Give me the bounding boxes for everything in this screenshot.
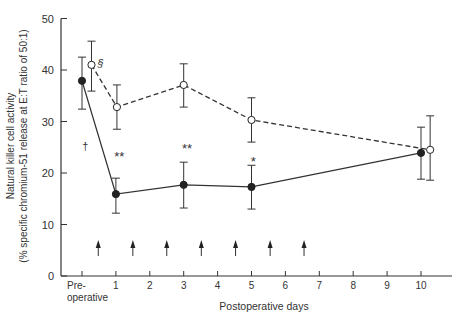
data-point — [180, 81, 187, 88]
y-tick-label: 0 — [48, 270, 54, 282]
y-tick-label: 20 — [42, 167, 54, 179]
y-tick-label: 50 — [42, 13, 54, 25]
arrow-icon — [302, 240, 307, 248]
data-point — [113, 103, 120, 110]
axes: 01020304050Pre-operative12345678910 — [42, 13, 452, 304]
data-point — [112, 191, 119, 198]
arrow-icon — [130, 240, 135, 248]
data-point — [88, 61, 95, 68]
data-series — [78, 41, 434, 213]
x-tick-label: 10 — [415, 280, 427, 291]
data-point — [417, 149, 424, 156]
significance-marker: § — [97, 57, 104, 69]
significance-marker: * — [251, 154, 256, 169]
y-tick-label: 30 — [42, 116, 54, 128]
x-tick-label: 6 — [283, 280, 289, 291]
x-tick-label: Pre- — [67, 280, 86, 291]
y-tick-label: 40 — [42, 64, 54, 76]
annotations: §†***** — [82, 57, 255, 169]
x-tick-label: 9 — [384, 280, 390, 291]
arrow-icon — [233, 240, 238, 248]
y-tick-label: 10 — [42, 219, 54, 231]
dosing-arrows — [96, 240, 307, 256]
arrow-icon — [164, 240, 169, 248]
x-tick-label: 1 — [113, 280, 119, 291]
data-point — [427, 146, 434, 153]
series-line — [91, 65, 430, 150]
x-tick-label: 7 — [317, 280, 323, 291]
x-axis-label: Postoperative days — [219, 300, 308, 312]
data-point — [78, 77, 85, 84]
arrow-icon — [199, 240, 204, 248]
significance-marker: † — [82, 140, 88, 152]
chart: 01020304050Pre-operative12345678910 §†**… — [0, 0, 466, 324]
data-point — [180, 181, 187, 188]
x-tick-label: 3 — [181, 280, 187, 291]
arrow-icon — [268, 240, 273, 248]
y-axis-label-line2: (% specific chromium-51 release at E:T r… — [18, 29, 29, 262]
x-tick-label: 4 — [215, 280, 221, 291]
x-tick-label: operative — [67, 292, 109, 303]
significance-marker: ** — [114, 149, 124, 164]
arrow-icon — [96, 240, 101, 248]
significance-marker: ** — [182, 141, 192, 156]
data-point — [248, 183, 255, 190]
y-axis-label-line1: Natural killer cell activity — [5, 93, 16, 200]
x-tick-label: 2 — [147, 280, 153, 291]
x-tick-label: 5 — [249, 280, 255, 291]
data-point — [248, 116, 255, 123]
x-tick-label: 8 — [350, 280, 356, 291]
